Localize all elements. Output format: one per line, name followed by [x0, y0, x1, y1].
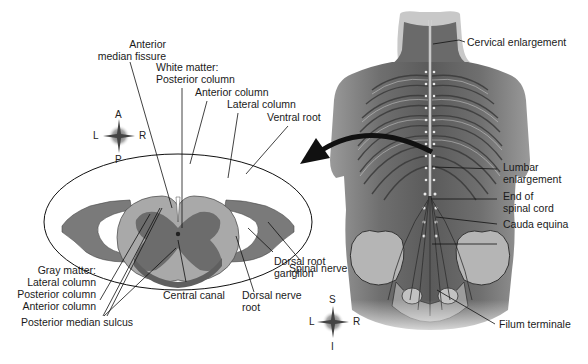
compass-label-right: R: [139, 131, 146, 141]
label-ventral-root: Ventral root: [267, 111, 321, 123]
compass-label-left-body: L: [309, 317, 315, 327]
compass-anterior-posterior-icon: [103, 119, 135, 153]
label-gray-matter: Gray matter: Lateral column Posterior co…: [0, 264, 96, 312]
label-filum-terminale: Filum terminale: [499, 318, 571, 330]
label-anterior-median-fissure: Anterior median fissure: [76, 38, 166, 62]
spinal-cord-diagram: Anterior median fissure White matter: Po…: [0, 0, 588, 364]
label-cauda-equina: Cauda equina: [503, 218, 568, 230]
label-lateral-column: Lateral column: [227, 98, 296, 110]
compass-label-left: L: [93, 131, 99, 141]
compass-label-inferior: I: [331, 342, 334, 352]
label-dorsal-nerve-root: Dorsal nerve root: [242, 289, 302, 313]
label-anterior-column: Anterior column: [195, 86, 269, 98]
label-posterior-median-sulcus: Posterior median sulcus: [21, 316, 133, 328]
compass-label-posterior: P: [115, 155, 122, 165]
label-central-canal: Central canal: [163, 289, 225, 301]
label-lumbar-enlargement: Lumbar enlargement: [503, 161, 561, 185]
label-white-matter-posterior-column: White matter: Posterior column: [156, 61, 235, 85]
label-dorsal-root-ganglion-text: Dorsal root ganglion: [274, 255, 325, 279]
compass-label-anterior: A: [115, 110, 122, 120]
label-cervical-enlargement: Cervical enlargement: [467, 36, 566, 48]
compass-label-superior: S: [329, 295, 336, 305]
compass-label-right-body: R: [353, 317, 360, 327]
label-end-of-spinal-cord: End of spinal cord: [503, 190, 554, 214]
